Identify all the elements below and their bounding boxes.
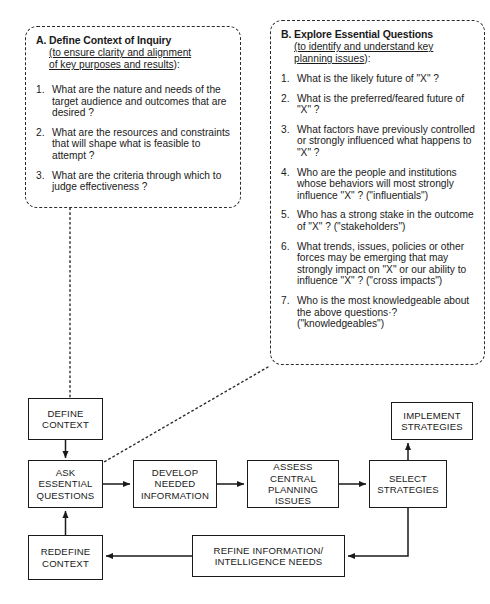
node-select-strategies[interactable]: SELECT STRATEGIES [369, 460, 447, 508]
list-item: 3. What are the criteria through which t… [36, 170, 233, 193]
panel-b-header: B.Explore Essential Questions (to identi… [281, 28, 478, 66]
question-number: 2. [36, 127, 52, 162]
diagram-canvas: A.Define Context of Inquiry (to ensure c… [0, 0, 490, 604]
node-ask-essential-questions[interactable]: ASK ESSENTIAL QUESTIONS [28, 460, 103, 508]
arrow-select-to-refine [348, 508, 408, 556]
panel-b-question-list: 1. What is the likely future of "X" ? 2.… [281, 73, 477, 338]
panel-b-subtitle: (to identify and understand keyplanning … [281, 41, 478, 66]
panel-a-question-list: 1. What are the nature and needs of the … [36, 84, 233, 201]
list-item: 1. What are the nature and needs of the … [36, 84, 233, 119]
panel-a-subtitle-tail: ): [174, 59, 180, 70]
question-text: What is the preferred/feared future of "… [297, 93, 477, 116]
question-number: 3. [36, 170, 52, 193]
question-number: 6. [281, 241, 297, 287]
list-item: 4. Who are the people and institutions w… [281, 167, 477, 202]
question-number: 1. [36, 84, 52, 119]
question-number: 3. [281, 124, 297, 159]
node-implement-strategies[interactable]: IMPLEMENT STRATEGIES [391, 402, 473, 440]
question-text: What is the likely future of "X" ? [297, 73, 477, 85]
list-item: 2. What is the preferred/feared future o… [281, 93, 477, 116]
node-redefine-context[interactable]: REDEFINE CONTEXT [28, 535, 103, 580]
question-text: What trends, issues, policies or other f… [297, 241, 477, 287]
list-item: 3. What factors have previously controll… [281, 124, 477, 159]
node-refine-information-intelligence-needs[interactable]: REFINE INFORMATION/ INTELLIGENCE NEEDS [192, 535, 345, 577]
question-number: 7. [281, 295, 297, 330]
panel-b-subtitle-tail: ): [364, 53, 370, 64]
dotted-link-panel-b-to-ask-questions [104, 367, 268, 462]
list-item: 2. What are the resources and constraint… [36, 127, 233, 162]
list-item: 7. Who is the most knowledgeable about t… [281, 295, 477, 330]
node-develop-needed-information[interactable]: DEVELOP NEEDED INFORMATION [133, 460, 217, 508]
panel-a-subtitle-line2: of key purposes and results [49, 59, 174, 70]
panel-define-context-of-inquiry: A.Define Context of Inquiry (to ensure c… [25, 26, 241, 208]
panel-b-title-line: B.Explore Essential Questions [281, 28, 478, 40]
question-number: 2. [281, 93, 297, 116]
question-text: What factors have previously controlled … [297, 124, 477, 159]
question-text: Who are the people and institutions whos… [297, 167, 477, 202]
panel-a-subtitle: (to ensure clarity and alignmentof key p… [36, 47, 234, 72]
question-text: What are the criteria through which to j… [52, 170, 233, 193]
panel-a-title: Define Context of Inquiry [49, 34, 171, 46]
question-text: Who has a strong stake in the outcome of… [297, 209, 477, 232]
panel-b-title: Explore Essential Questions [294, 28, 433, 40]
question-number: 5. [281, 209, 297, 232]
panel-b-subtitle-line1: (to identify and understand key [294, 41, 433, 52]
panel-a-letter: A. [36, 34, 49, 46]
question-text: What are the nature and needs of the tar… [52, 84, 233, 119]
list-item: 5. Who has a strong stake in the outcome… [281, 209, 477, 232]
node-assess-central-planning-issues[interactable]: ASSESS CENTRAL PLANNING ISSUES [247, 460, 339, 508]
panel-a-title-line: A.Define Context of Inquiry [36, 34, 234, 46]
question-number: 1. [281, 73, 297, 85]
list-item: 1. What is the likely future of "X" ? [281, 73, 477, 85]
panel-b-subtitle-line2: planning issues [294, 53, 364, 64]
panel-a-subtitle-line1: (to ensure clarity and alignment [49, 47, 191, 58]
panel-b-letter: B. [281, 28, 294, 40]
question-number: 4. [281, 167, 297, 202]
panel-explore-essential-questions: B.Explore Essential Questions (to identi… [270, 20, 485, 365]
question-text: What are the resources and constraints t… [52, 127, 233, 162]
question-text: Who is the most knowledgeable about the … [297, 295, 477, 330]
node-define-context[interactable]: DEFINE CONTEXT [28, 398, 103, 440]
panel-a-header: A.Define Context of Inquiry (to ensure c… [36, 34, 234, 72]
list-item: 6. What trends, issues, policies or othe… [281, 241, 477, 287]
